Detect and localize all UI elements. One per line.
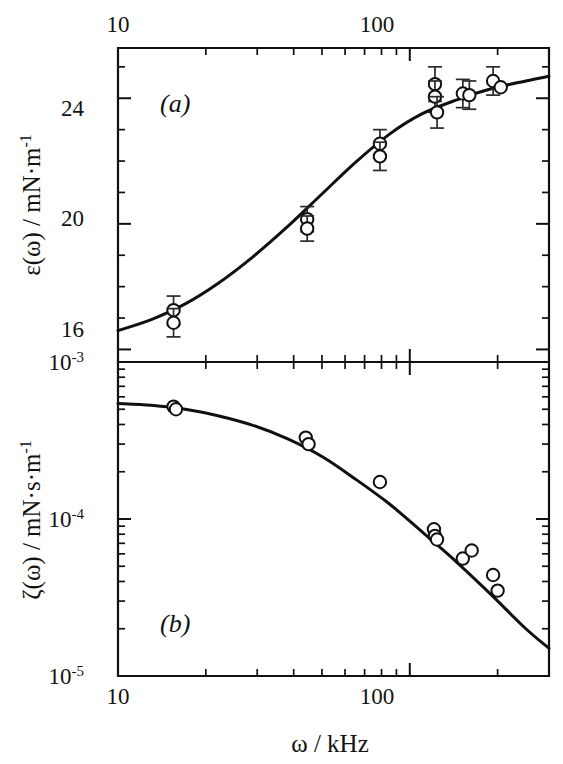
panel-a-data-points bbox=[167, 67, 507, 337]
two-panel-plot: (a) 24 20 16 ε(ω) / mN·m-1 10 100 (b) bbox=[0, 0, 563, 764]
panel-a-yaxis-title-main: ε(ω) / mN·m bbox=[18, 147, 46, 276]
panel-b-label: (b) bbox=[160, 609, 190, 638]
data-point-marker bbox=[491, 584, 503, 596]
data-point-marker bbox=[167, 317, 179, 329]
panel-b-yaxis-title-main: ζ(ω) / mN·s·m bbox=[18, 453, 46, 600]
data-point-marker bbox=[465, 544, 477, 556]
data-point-marker bbox=[302, 438, 314, 450]
panel-b: (b) 10-3 10-4 10-5 ζ(ω) / mN·s·m-1 bbox=[17, 349, 549, 689]
data-point-marker bbox=[374, 150, 386, 162]
panel-a-yaxis-title-exponent: -1 bbox=[17, 134, 34, 147]
data-point-marker bbox=[301, 222, 313, 234]
svg-text:ζ(ω) / mN·s·m-1: ζ(ω) / mN·s·m-1 bbox=[17, 440, 46, 600]
figure-container: (a) 24 20 16 ε(ω) / mN·m-1 10 100 (b) bbox=[0, 0, 563, 764]
xaxis-top-tick-10: 10 bbox=[107, 12, 130, 37]
panel-a-label: (a) bbox=[160, 89, 190, 118]
panel-b-ytick-1e-4: 10-4 bbox=[49, 506, 85, 532]
xaxis-title: ω / kHz bbox=[291, 730, 369, 757]
xaxis-bottom-tick-100: 100 bbox=[360, 684, 395, 709]
panel-a-ytick-24: 24 bbox=[61, 96, 85, 121]
data-point-marker bbox=[495, 81, 507, 93]
data-point-marker bbox=[431, 106, 443, 118]
panel-b-yaxis-title: ζ(ω) / mN·s·m-1 bbox=[17, 440, 46, 600]
panel-a-ytick-16: 16 bbox=[61, 317, 84, 342]
panel-b-ytick-1e-5: 10-5 bbox=[49, 663, 85, 689]
svg-text:ε(ω) / mN·m-1: ε(ω) / mN·m-1 bbox=[17, 134, 46, 276]
data-point-marker bbox=[487, 569, 499, 581]
panel-b-yaxis-title-exponent: -1 bbox=[17, 440, 34, 453]
data-point-marker bbox=[431, 533, 443, 545]
panel-a-yaxis-title: ε(ω) / mN·m-1 bbox=[17, 134, 46, 276]
panel-b-data-points bbox=[167, 400, 503, 596]
panel-a: (a) 24 20 16 ε(ω) / mN·m-1 bbox=[17, 48, 549, 362]
xaxis-top-tick-100: 100 bbox=[360, 12, 395, 37]
panel-b-ytick-1e-3: 10-3 bbox=[49, 349, 85, 375]
data-point-marker bbox=[170, 403, 182, 415]
data-point-marker bbox=[463, 89, 475, 101]
data-point-marker bbox=[374, 476, 386, 488]
panel-a-ytick-20: 20 bbox=[61, 206, 84, 231]
xaxis-bottom-tick-10: 10 bbox=[107, 684, 130, 709]
